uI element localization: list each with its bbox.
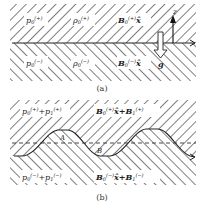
- point-a-label: A: [59, 134, 65, 142]
- panel-b-caption: (b): [96, 193, 107, 202]
- gravity-label: g: [158, 59, 164, 69]
- diagram-canvas: z g p0(+) ρ0(+) B0(+)x̂ p0(−) ρ0(−) B0(−…: [0, 0, 204, 209]
- panel-a-caption: (a): [96, 84, 107, 93]
- point-b-label: B: [96, 147, 102, 155]
- z-axis-label: z: [172, 8, 177, 16]
